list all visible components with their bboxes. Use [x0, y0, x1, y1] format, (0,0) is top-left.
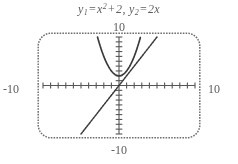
function-2-equals: = [139, 2, 148, 16]
function-2-expression: y2=2x [129, 2, 160, 16]
x-axis-max-label: 10 [208, 82, 220, 97]
function-1-equals: = [88, 2, 97, 16]
function-1-expression: y1=x2+2 [78, 2, 122, 16]
function-2-value: 2x [148, 2, 160, 16]
x-axis-min-label: -10 [3, 82, 19, 97]
plot-canvas [37, 32, 201, 139]
figure-title: y1=x2+2, y2=2x [0, 2, 238, 17]
function-1-plus: + [107, 2, 116, 16]
calculator-screen [37, 32, 201, 139]
graphing-calculator-figure: y1=x2+2, y2=2x 10 -10 -10 10 [0, 0, 238, 164]
y-axis-min-label: -10 [0, 143, 238, 158]
title-comma: , [122, 2, 125, 16]
